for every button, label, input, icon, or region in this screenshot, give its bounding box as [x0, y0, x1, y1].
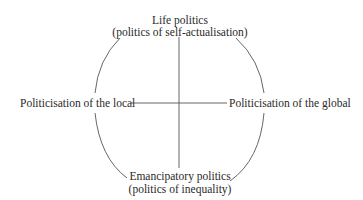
left-label: Politicisation of the local — [20, 97, 135, 109]
arc-top-left — [95, 38, 120, 93]
top-label-subtitle: (politics of self-actualisation) — [112, 26, 247, 38]
top-label-title: Life politics — [152, 14, 208, 26]
bottom-label-subtitle: (politics of inequality) — [129, 183, 232, 195]
arc-top-right — [236, 38, 264, 93]
arc-bottom-right — [230, 113, 264, 181]
arc-bottom-left — [95, 113, 127, 178]
bottom-label-title: Emancipatory politics — [129, 170, 230, 182]
politics-quadrant-diagram: Life politics (politics of self-actualis… — [0, 0, 363, 200]
right-label: Politicisation of the global — [229, 97, 351, 109]
